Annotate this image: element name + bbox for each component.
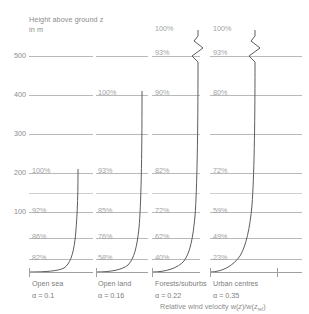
baseline-col4 [210, 272, 302, 273]
baseline-col3 [152, 272, 200, 273]
baseline-col1 [29, 272, 93, 273]
category-label-open-sea: Open sea [32, 279, 63, 288]
baseline-col2 [96, 272, 148, 273]
x-tick-col1 [29, 268, 30, 277]
x-axis-title: Relative wind velocity w(z)/w(zref) [160, 302, 266, 312]
category-label-urban-centres: Urban centres [213, 279, 258, 288]
category-label-forests-suburbs: Forests/suburbs [155, 279, 207, 288]
profile-curves [0, 0, 309, 314]
alpha-open-land: α = 0.16 [98, 291, 124, 300]
curve-forests-suburbs [152, 66, 198, 272]
curve-open-land [96, 95, 142, 272]
alpha-urban-centres: α = 0.35 [213, 291, 239, 300]
curve-urban-centres [210, 66, 255, 272]
x-tick-col4 [210, 268, 211, 277]
axis-break-urban [249, 30, 260, 66]
wind-profile-chart: Height above ground z in m 500 400 300 2… [0, 0, 309, 314]
x-tick-end [277, 268, 278, 277]
curve-open-sea [29, 173, 78, 272]
category-label-open-land: Open land [98, 279, 131, 288]
x-tick-col3 [152, 268, 153, 277]
x-tick-col2 [96, 268, 97, 277]
axis-break-forests [192, 30, 203, 66]
alpha-open-sea: α = 0.1 [32, 291, 54, 300]
alpha-forests-suburbs: α = 0.22 [155, 291, 181, 300]
